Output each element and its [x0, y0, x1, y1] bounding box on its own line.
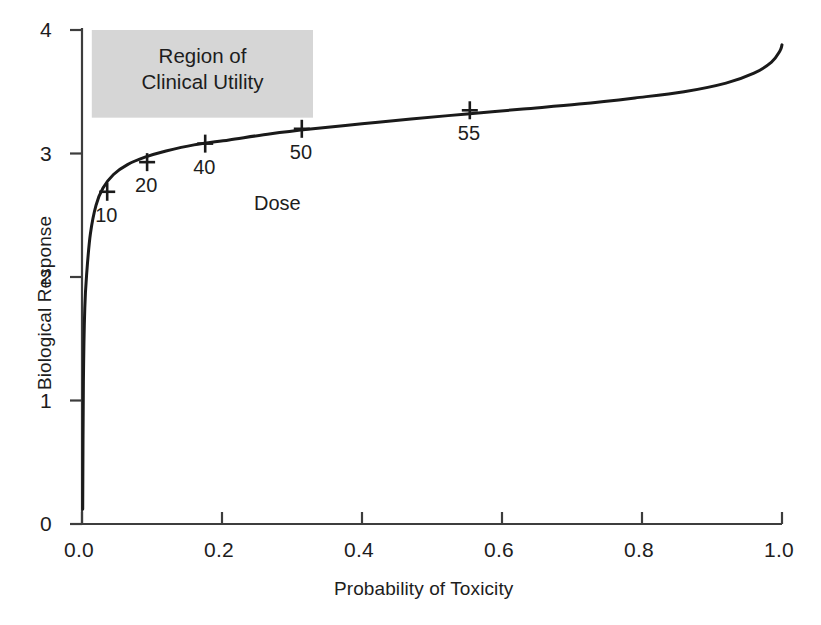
- x-axis-title: Probability of Toxicity: [334, 578, 513, 600]
- y-axis-title: Biological Response: [34, 216, 56, 390]
- dose-group-label: Dose: [254, 192, 301, 215]
- dose-marker-55: [462, 101, 478, 119]
- x-tick-label-2: 0.4: [344, 538, 374, 562]
- x-axis-ticks: [82, 512, 782, 524]
- x-tick-label-1: 0.2: [204, 538, 234, 562]
- x-tick-label-5: 1.0: [764, 538, 794, 562]
- region-of-clinical-utility-label: Region of Clinical Utility: [92, 43, 313, 95]
- x-tick-label-4: 0.8: [624, 538, 654, 562]
- region-label-line-2: Clinical Utility: [92, 69, 313, 95]
- y-tick-label-3: 3: [40, 142, 52, 166]
- x-tick-label-3: 0.6: [484, 538, 514, 562]
- dose-marker-10: [99, 183, 115, 201]
- dose-marker-40: [197, 135, 213, 153]
- dose-marker-50: [294, 120, 310, 138]
- region-label-line-1: Region of: [92, 43, 313, 69]
- chart-figure: 4 3 2 1 0 0.0 0.2 0.4 0.6 0.8 1.0 Biolog…: [0, 0, 821, 625]
- x-tick-label-0: 0.0: [64, 538, 94, 562]
- y-tick-label-0: 0: [40, 512, 52, 536]
- dose-value-label-40: 40: [193, 156, 215, 179]
- dose-value-label-20: 20: [135, 174, 157, 197]
- dose-value-label-10: 10: [95, 204, 117, 227]
- y-tick-label-4: 4: [40, 18, 52, 42]
- dose-value-label-50: 50: [290, 141, 312, 164]
- y-axis-ticks: [70, 30, 82, 524]
- y-tick-label-1: 1: [40, 389, 52, 413]
- dose-value-label-55: 55: [458, 122, 480, 145]
